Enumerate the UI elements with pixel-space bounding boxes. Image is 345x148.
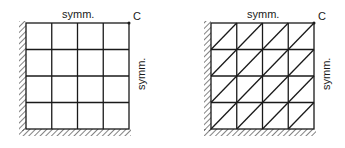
right-symmetry-label: symm. (320, 58, 332, 90)
left-wall-support (19, 21, 26, 131)
left-wall-support (204, 21, 211, 131)
right-mesh-figure: symm. C symm. (204, 8, 332, 136)
bottom-wall-support (19, 129, 131, 136)
top-symmetry-label: symm. (247, 8, 279, 20)
bottom-wall-support (204, 129, 316, 136)
triangular-grid (211, 23, 314, 129)
quad-grid (26, 23, 129, 129)
left-mesh-figure: symm. C symm. (19, 8, 147, 136)
diagram-canvas: symm. C symm. symm. C symm. (0, 0, 345, 148)
corner-node-c (313, 22, 316, 25)
corner-label-c: C (318, 10, 326, 22)
corner-label-c: C (133, 10, 141, 22)
right-symmetry-label: symm. (135, 58, 147, 90)
top-symmetry-label: symm. (62, 8, 94, 20)
corner-node-c (128, 22, 131, 25)
